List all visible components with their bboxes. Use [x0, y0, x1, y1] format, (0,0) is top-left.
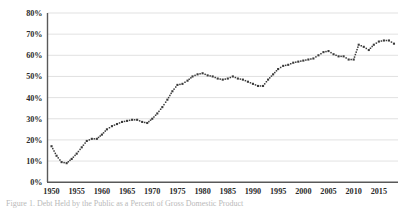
data-point-marker — [353, 58, 355, 60]
data-point-marker — [96, 138, 98, 140]
data-point-marker — [287, 64, 289, 66]
data-point-marker — [269, 77, 271, 79]
data-point-marker — [63, 162, 64, 164]
data-point-marker — [166, 99, 168, 101]
data-point-marker — [190, 77, 192, 79]
data-point-marker — [101, 134, 103, 136]
data-point-marker — [150, 119, 152, 121]
data-point-marker — [363, 46, 365, 48]
data-point-marker — [84, 142, 86, 144]
data-point-marker — [163, 104, 165, 106]
data-point-marker — [136, 119, 138, 121]
y-axis-tick-label: 20% — [26, 136, 42, 145]
data-point-marker — [181, 83, 183, 85]
data-point-marker — [276, 70, 278, 72]
data-point-marker — [327, 50, 329, 52]
data-point-marker — [376, 42, 378, 44]
data-point-marker — [91, 138, 93, 140]
data-point-marker — [378, 41, 380, 43]
data-point-marker — [242, 79, 244, 81]
data-point-marker — [393, 43, 395, 45]
y-axis-tick-label: 40% — [26, 94, 42, 103]
data-point-marker — [260, 85, 262, 87]
x-axis-tick-label: 2015 — [371, 187, 387, 196]
data-point-marker — [391, 41, 393, 43]
data-point-marker — [310, 58, 312, 60]
data-point-marker — [252, 83, 254, 85]
x-axis-tick-label: 1985 — [220, 187, 236, 196]
data-point-marker — [383, 39, 385, 41]
data-point-marker — [305, 59, 307, 61]
data-point-marker — [83, 144, 85, 146]
data-point-marker — [103, 132, 105, 134]
data-point-marker — [366, 48, 368, 50]
y-axis-tick-labels-group: 0%10%20%30%40%50%60%70%80% — [26, 9, 42, 187]
data-point-marker — [282, 65, 284, 67]
data-point-marker — [357, 46, 359, 48]
data-point-marker — [280, 67, 282, 69]
data-point-marker — [158, 111, 160, 113]
data-point-marker — [247, 81, 249, 83]
data-point-marker — [71, 158, 73, 160]
data-point-marker — [119, 122, 121, 124]
x-axis-tick-label: 1965 — [119, 187, 135, 196]
data-point-marker — [168, 97, 170, 99]
data-point-marker — [52, 148, 54, 150]
data-point-marker — [169, 95, 171, 97]
data-point-marker — [151, 118, 153, 120]
data-point-marker — [121, 121, 123, 123]
data-point-marker — [292, 62, 294, 64]
data-point-marker — [98, 137, 100, 139]
data-point-marker — [184, 82, 186, 84]
data-point-marker — [219, 78, 221, 80]
data-point-marker — [354, 56, 356, 58]
data-point-marker — [272, 73, 274, 75]
data-point-marker — [124, 121, 126, 123]
data-point-marker — [173, 88, 175, 90]
x-axis-tick-label: 1980 — [194, 187, 210, 196]
data-point-marker — [116, 123, 118, 125]
data-point-marker — [209, 75, 211, 77]
data-point-marker — [199, 73, 201, 75]
data-point-marker — [255, 84, 256, 86]
data-point-marker — [370, 48, 372, 50]
data-point-marker — [191, 75, 193, 77]
data-point-marker — [343, 55, 345, 57]
data-point-marker — [56, 155, 58, 157]
data-point-marker — [106, 128, 108, 130]
data-point-marker — [368, 49, 370, 51]
chart-figure: 0%10%20%30%40%50%60%70%80% 1950195519601… — [0, 0, 416, 210]
data-point-marker — [66, 162, 68, 164]
chart-canvas: 0%10%20%30%40%50%60%70%80% 1950195519601… — [0, 0, 416, 210]
data-point-marker — [266, 81, 268, 83]
x-axis-tick-label: 1955 — [69, 187, 85, 196]
y-axis-tick-label: 50% — [26, 72, 42, 81]
data-point-marker — [307, 58, 309, 60]
data-point-marker — [104, 130, 106, 132]
data-point-marker — [81, 146, 83, 148]
data-point-marker — [388, 39, 390, 41]
data-point-marker — [356, 49, 358, 51]
data-point-marker — [214, 77, 216, 79]
x-axis-tick-label: 2000 — [295, 187, 311, 196]
x-axis-tick-label: 1995 — [270, 187, 286, 196]
data-point-marker — [55, 153, 57, 155]
data-point-marker — [225, 78, 227, 80]
y-axis-tick-label: 60% — [26, 51, 42, 60]
data-point-marker — [264, 83, 266, 85]
data-point-marker — [160, 108, 162, 110]
data-point-marker — [114, 124, 116, 126]
data-point-marker — [332, 53, 334, 55]
data-point-marker — [317, 54, 319, 56]
data-point-marker — [50, 145, 52, 147]
data-point-marker — [109, 127, 111, 128]
data-point-marker — [217, 78, 219, 80]
x-axis-tick-label: 2005 — [320, 187, 336, 196]
data-point-marker — [153, 116, 155, 118]
data-point-marker — [89, 139, 91, 141]
data-point-marker — [315, 56, 317, 58]
data-point-marker — [232, 75, 234, 77]
data-point-marker — [161, 106, 163, 108]
data-point-marker — [188, 79, 190, 81]
data-point-marker — [267, 79, 269, 81]
